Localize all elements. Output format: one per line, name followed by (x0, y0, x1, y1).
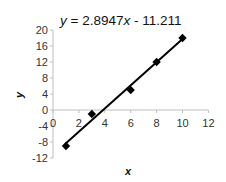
x-axis-title: x (124, 165, 132, 177)
x-tick-label: 0 (50, 117, 56, 129)
x-tick-label: 10 (176, 117, 188, 129)
trendline (66, 39, 183, 143)
axes (50, 30, 208, 158)
scatter-chart: y = 2.8947x - 11.211 201612840-4-8-12 02… (0, 0, 226, 182)
x-tick-label: 6 (128, 117, 134, 129)
x-axis-tick-labels: 024681012 (50, 117, 215, 129)
x-tick-label: 2 (76, 117, 82, 129)
y-tick-label: 8 (42, 72, 48, 84)
x-tick-label: 4 (102, 117, 108, 129)
y-axis-title: y (13, 91, 25, 99)
y-tick-label: -8 (38, 136, 48, 148)
y-tick-label: 4 (42, 88, 48, 100)
y-tick-label: 12 (36, 56, 48, 68)
y-tick-label: 16 (36, 40, 48, 52)
x-tick-label: 8 (154, 117, 160, 129)
x-tick-label: 12 (202, 117, 214, 129)
trendline-equation: y = 2.8947x - 11.211 (59, 13, 181, 28)
data-point-marker (62, 142, 70, 150)
y-tick-label: -12 (32, 152, 48, 164)
y-tick-label: 20 (36, 24, 48, 36)
y-axis-tick-labels: 201612840-4-8-12 (32, 24, 48, 164)
y-tick-label: -4 (38, 120, 48, 132)
y-tick-label: 0 (42, 104, 48, 116)
